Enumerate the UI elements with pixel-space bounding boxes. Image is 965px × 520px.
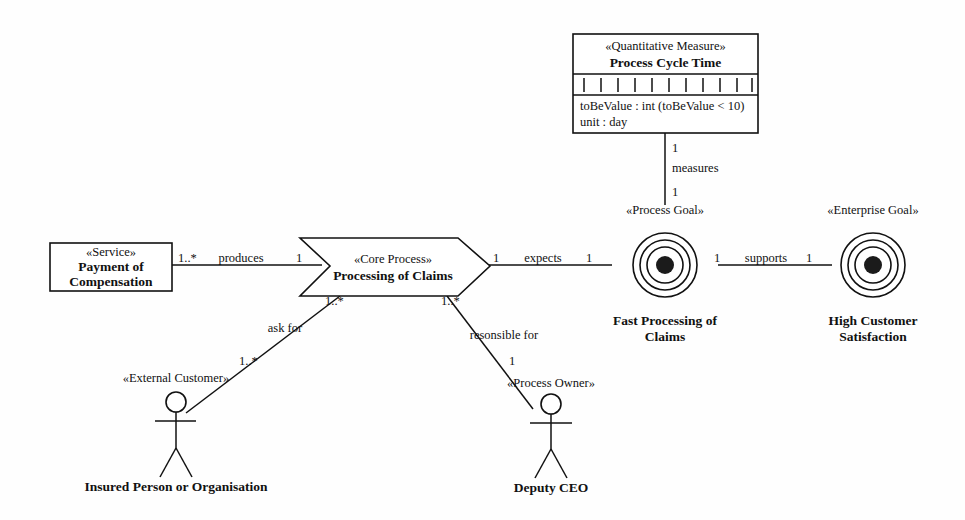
measure-attribute-tobevalue: toBeValue : int (toBeValue < 10) <box>580 99 744 113</box>
node-external-customer[interactable]: «External Customer» Insured Person or Or… <box>85 371 268 494</box>
process-owner-actor-leg-left <box>535 449 551 478</box>
enterprise-goal-name-line2: Satisfaction <box>839 329 907 344</box>
measure-name: Process Cycle Time <box>610 55 722 70</box>
process-goal-center-dot <box>656 256 674 274</box>
uml-goal-diagram: «Quantitative Measure» Process Cycle Tim… <box>0 0 965 520</box>
process-owner-actor-leg-right <box>551 449 567 478</box>
service-name-line2: Compensation <box>69 274 153 289</box>
edge-ask-for-target-multiplicity: 1..* <box>325 294 344 308</box>
edge-produces-target-multiplicity: 1 <box>296 251 302 265</box>
external-customer-name: Insured Person or Organisation <box>85 479 268 494</box>
enterprise-goal-center-dot <box>864 256 882 274</box>
edge-ask-for-line <box>186 296 340 413</box>
node-core-process[interactable]: «Core Process» Processing of Claims <box>300 238 490 296</box>
edge-responsible-for-label: resonsible for <box>470 328 539 342</box>
edge-supports-source-multiplicity: 1 <box>714 251 720 265</box>
edge-expects-source-multiplicity: 1 <box>493 251 499 265</box>
core-process-stereotype: «Core Process» <box>354 252 432 266</box>
node-enterprise-goal[interactable]: «Enterprise Goal» High Customer Satisfac… <box>827 203 918 344</box>
process-owner-actor-head <box>541 394 561 414</box>
measure-stereotype: «Quantitative Measure» <box>605 39 725 53</box>
process-goal-name-line2: Claims <box>645 329 686 344</box>
edge-supports-label: supports <box>745 251 788 265</box>
edge-responsible-for-line <box>447 296 533 409</box>
node-service[interactable]: «Service» Payment of Compensation <box>50 243 172 291</box>
enterprise-goal-stereotype: «Enterprise Goal» <box>827 203 918 217</box>
external-customer-stereotype: «External Customer» <box>123 371 230 385</box>
edge-measures-source-multiplicity: 1 <box>672 141 678 155</box>
edge-expects-label: expects <box>524 251 562 265</box>
edge-ask-for-source-multiplicity: 1..* <box>239 354 258 368</box>
external-customer-actor-head <box>166 392 186 412</box>
core-process-chevron-outline <box>300 238 490 296</box>
measure-attribute-unit: unit : day <box>580 115 628 129</box>
edge-measures-target-multiplicity: 1 <box>672 185 678 199</box>
edge-expects-target-multiplicity: 1 <box>586 251 592 265</box>
edge-supports-target-multiplicity: 1 <box>806 251 812 265</box>
external-customer-actor-leg-right <box>176 448 192 477</box>
external-customer-actor-leg-left <box>160 448 176 477</box>
node-process-owner[interactable]: «Process Owner» Deputy CEO <box>507 376 595 495</box>
process-goal-name-line1: Fast Processing of <box>613 313 717 328</box>
edge-responsible-for-source-multiplicity: 1..* <box>441 294 460 308</box>
service-name-line1: Payment of <box>78 259 144 274</box>
edge-produces-label: produces <box>218 251 263 265</box>
node-quantitative-measure[interactable]: «Quantitative Measure» Process Cycle Tim… <box>573 34 758 133</box>
core-process-name: Processing of Claims <box>333 268 453 283</box>
node-process-goal[interactable]: «Process Goal» Fast Processing of Claims <box>613 203 717 344</box>
edge-measures-label: measures <box>672 161 719 175</box>
process-owner-name: Deputy CEO <box>514 480 589 495</box>
edge-ask-for-label: ask for <box>268 321 303 335</box>
process-owner-stereotype: «Process Owner» <box>507 376 595 390</box>
enterprise-goal-name-line1: High Customer <box>829 313 918 328</box>
process-goal-stereotype: «Process Goal» <box>626 203 704 217</box>
diagram-canvas: «Quantitative Measure» Process Cycle Tim… <box>0 0 965 520</box>
edge-responsible-for-target-multiplicity: 1 <box>509 354 515 368</box>
service-stereotype: «Service» <box>86 245 136 259</box>
edge-produces-source-multiplicity: 1..* <box>178 251 197 265</box>
